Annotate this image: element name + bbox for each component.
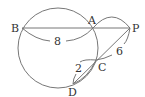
measure-label-cd: 2 — [75, 62, 82, 75]
point-label-a: A — [87, 14, 97, 27]
measure-arc-ap — [93, 17, 130, 28]
point-label-p: P — [132, 22, 140, 35]
measure-arc-cd-top — [80, 60, 96, 62]
point-label-c: C — [98, 61, 106, 74]
measure-arc-ba-right — [66, 28, 93, 41]
measure-arc-pc-bottom — [96, 55, 112, 60]
measure-label-ba: 8 — [54, 35, 61, 48]
point-label-b: B — [11, 22, 19, 35]
point-label-d: D — [68, 86, 77, 97]
measure-arc-ba-left — [22, 28, 50, 41]
secant-diagram: 8 6 2 B A P C D — [0, 0, 145, 97]
measure-label-pc: 6 — [116, 45, 123, 58]
circle — [18, 8, 98, 88]
